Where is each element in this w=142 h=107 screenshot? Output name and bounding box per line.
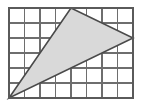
figure-root: [0, 0, 142, 107]
grid-figure: [0, 0, 142, 107]
